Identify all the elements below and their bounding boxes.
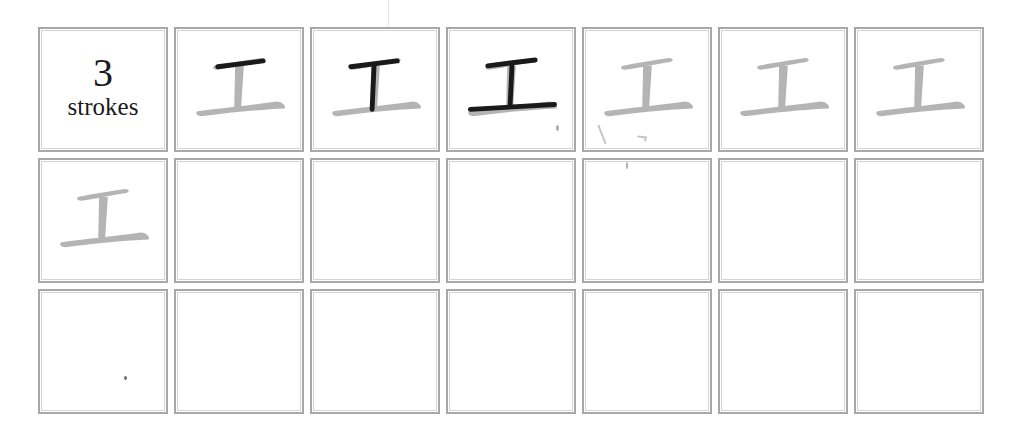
trace-cell[interactable] (582, 27, 712, 152)
blank-practice-cell[interactable] (446, 289, 576, 414)
trace-cell[interactable] (38, 158, 168, 283)
blank-practice-cell[interactable] (718, 158, 848, 283)
blank-practice-cell[interactable] (854, 289, 984, 414)
ink-speck (124, 376, 127, 380)
stroke-count-cell: 3 strokes (38, 27, 168, 152)
blank-practice-cell[interactable] (446, 158, 576, 283)
blank-practice-cell[interactable] (582, 289, 712, 414)
stroke-order-cell-1 (174, 27, 304, 152)
blank-practice-cell[interactable] (854, 158, 984, 283)
blank-practice-cell[interactable] (174, 158, 304, 283)
trace-cell[interactable] (718, 27, 848, 152)
blank-practice-cell[interactable] (310, 289, 440, 414)
trace-character-glyph (720, 29, 846, 150)
blank-practice-cell[interactable] (310, 158, 440, 283)
blank-practice-cell[interactable] (582, 158, 712, 283)
stroke-order-step-1-glyph (176, 29, 302, 150)
trace-character-glyph (40, 160, 166, 281)
ink-speck (556, 125, 559, 131)
stroke-order-step-3-glyph (448, 29, 574, 150)
stroke-label: strokes (68, 93, 139, 121)
trace-character-glyph (584, 29, 710, 150)
trace-character-glyph (856, 29, 982, 150)
trace-cell[interactable] (854, 27, 984, 152)
stroke-order-step-2-glyph (312, 29, 438, 150)
blank-practice-cell[interactable] (174, 289, 304, 414)
ink-speck (626, 162, 628, 169)
practice-grid: 3 strokes (38, 27, 984, 414)
stroke-count: 3 (93, 53, 113, 93)
blank-practice-cell[interactable] (38, 289, 168, 414)
paper-fold-line (388, 0, 389, 27)
blank-practice-cell[interactable] (718, 289, 848, 414)
stroke-order-cell-3 (446, 27, 576, 152)
stroke-order-cell-2 (310, 27, 440, 152)
